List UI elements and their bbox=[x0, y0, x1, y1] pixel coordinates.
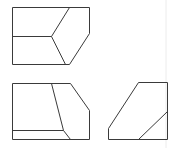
front-view-outline bbox=[13, 84, 90, 140]
front-view-inner-edge bbox=[52, 84, 64, 131]
side-view-outline bbox=[109, 83, 168, 140]
top-view bbox=[13, 8, 90, 65]
front-view-inner-edge bbox=[64, 131, 71, 140]
front-view bbox=[13, 84, 90, 140]
three-view-drawing bbox=[0, 0, 172, 148]
top-view-inner-edge bbox=[52, 8, 70, 37]
side-view bbox=[109, 83, 168, 140]
side-view-inner-edge bbox=[139, 112, 168, 140]
top-view-inner-edge bbox=[52, 37, 66, 65]
